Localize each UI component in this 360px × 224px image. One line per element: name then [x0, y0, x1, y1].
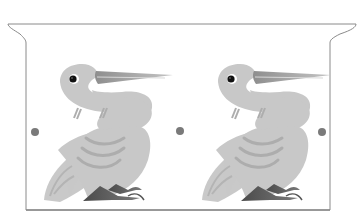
decorative-dot-center: [176, 127, 184, 135]
decorative-dot-right: [318, 128, 326, 136]
decorative-dot-left: [31, 128, 39, 136]
bird-panel-drawing: [0, 0, 360, 224]
illustration-panel: Grayscale illustration of two stylized b…: [0, 0, 360, 224]
